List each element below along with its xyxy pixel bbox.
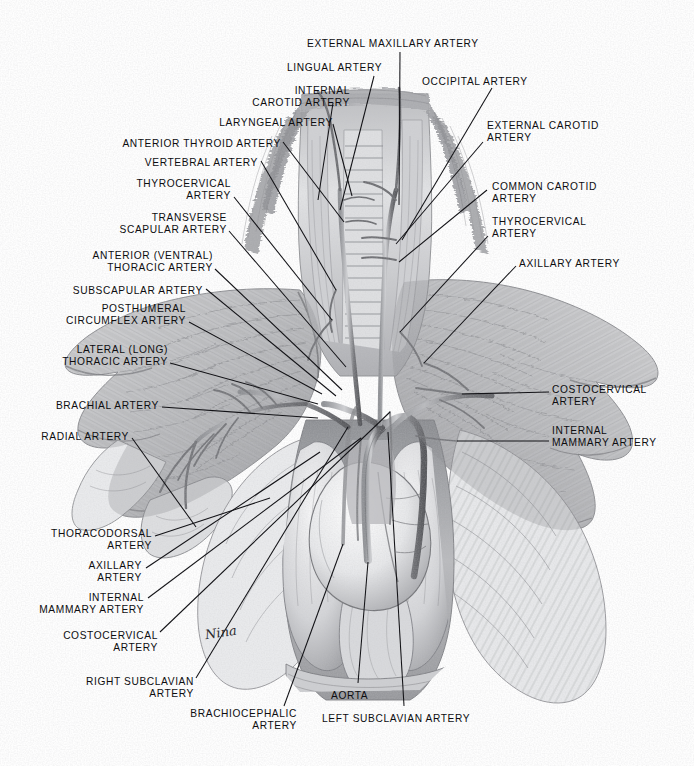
- label-line: INTERNAL: [39, 592, 144, 604]
- label-line: EXTERNAL CAROTID: [487, 120, 599, 132]
- label-internal-carotid-artery: INTERNALCAROTID ARTERY: [252, 85, 350, 110]
- label-line: TRANSVERSE: [120, 212, 227, 224]
- label-line: ARTERY: [51, 540, 152, 552]
- label-line: ARTERY: [190, 720, 297, 732]
- label-line: ARTERY: [487, 132, 599, 144]
- label-line: CIRCUMFLEX ARTERY: [66, 315, 186, 327]
- label-line: ARTERY: [492, 228, 586, 240]
- label-line: ANTERIOR (VENTRAL): [93, 250, 213, 262]
- label-posthumeral-circumflex-artery: POSTHUMERALCIRCUMFLEX ARTERY: [66, 303, 186, 328]
- label-line: AXILLARY: [89, 560, 142, 572]
- label-transverse-scapular-artery: TRANSVERSESCAPULAR ARTERY: [120, 212, 227, 237]
- label-line: ARTERY: [63, 642, 158, 654]
- label-line: RIGHT SUBCLAVIAN: [86, 676, 194, 688]
- label-line: LEFT SUBCLAVIAN ARTERY: [322, 713, 470, 725]
- label-line: RADIAL ARTERY: [41, 431, 129, 443]
- label-axillary-artery-left: AXILLARYARTERY: [89, 560, 142, 585]
- label-line: VERTEBRAL ARTERY: [145, 157, 258, 169]
- label-costocervical-artery-left: COSTOCERVICALARTERY: [63, 630, 158, 655]
- label-line: SCAPULAR ARTERY: [120, 224, 227, 236]
- label-thyrocervical-artery-right: THYROCERVICALARTERY: [492, 216, 586, 241]
- label-line: ARTERY: [86, 688, 194, 700]
- label-right-subclavian-artery: RIGHT SUBCLAVIANARTERY: [86, 676, 194, 701]
- label-line: ARTERY: [89, 572, 142, 584]
- label-costocervical-artery-right: COSTOCERVICALARTERY: [552, 384, 647, 409]
- label-common-carotid-artery: COMMON CAROTIDARTERY: [492, 181, 597, 206]
- label-line: BRACHIAL ARTERY: [56, 400, 159, 412]
- label-line: CAROTID ARTERY: [252, 97, 350, 109]
- label-brachiocephalic-artery: BRACHIOCEPHALICARTERY: [190, 708, 297, 733]
- label-line: AXILLARY ARTERY: [519, 258, 620, 270]
- label-line: INTERNAL: [552, 425, 657, 437]
- label-line: LATERAL (LONG): [62, 344, 168, 356]
- label-line: COSTOCERVICAL: [552, 384, 647, 396]
- label-line: COSTOCERVICAL: [63, 630, 158, 642]
- label-line: AORTA: [331, 690, 368, 702]
- label-thyrocervical-artery-left: THYROCERVICALARTERY: [137, 178, 231, 203]
- label-line: MAMMARY ARTERY: [39, 604, 144, 616]
- label-laryngeal-artery: LARYNGEAL ARTERY: [219, 117, 333, 129]
- label-external-carotid-artery: EXTERNAL CAROTIDARTERY: [487, 120, 599, 145]
- label-subscapular-artery: SUBSCAPULAR ARTERY: [73, 285, 203, 297]
- label-line: POSTHUMERAL: [66, 303, 186, 315]
- label-line: LARYNGEAL ARTERY: [219, 117, 333, 129]
- label-external-maxillary-artery: EXTERNAL MAXILLARY ARTERY: [307, 38, 479, 50]
- label-radial-artery: RADIAL ARTERY: [41, 431, 129, 443]
- label-anterior-ventral-thoracic-artery: ANTERIOR (VENTRAL)THORACIC ARTERY: [93, 250, 213, 275]
- label-line: EXTERNAL MAXILLARY ARTERY: [307, 38, 479, 50]
- label-line: LINGUAL ARTERY: [287, 62, 382, 74]
- label-line: ARTERY: [137, 190, 231, 202]
- label-internal-mammary-artery-left: INTERNALMAMMARY ARTERY: [39, 592, 144, 617]
- label-line: SUBSCAPULAR ARTERY: [73, 285, 203, 297]
- label-axillary-artery-right: AXILLARY ARTERY: [519, 258, 620, 270]
- label-line: ARTERY: [552, 396, 647, 408]
- label-brachial-artery: BRACHIAL ARTERY: [56, 400, 159, 412]
- label-line: THYROCERVICAL: [492, 216, 586, 228]
- label-line: THORACIC ARTERY: [93, 262, 213, 274]
- label-left-subclavian-artery: LEFT SUBCLAVIAN ARTERY: [322, 713, 470, 725]
- label-line: THORACIC ARTERY: [62, 356, 168, 368]
- label-aorta: AORTA: [331, 690, 368, 702]
- label-line: ANTERIOR THYROID ARTERY: [122, 138, 281, 150]
- label-line: THYROCERVICAL: [137, 178, 231, 190]
- label-line: MAMMARY ARTERY: [552, 437, 657, 449]
- label-lateral-long-thoracic-artery: LATERAL (LONG)THORACIC ARTERY: [62, 344, 168, 369]
- label-line: BRACHIOCEPHALIC: [190, 708, 297, 720]
- label-thoracodorsal-artery: THORACODORSALARTERY: [51, 528, 152, 553]
- label-line: THORACODORSAL: [51, 528, 152, 540]
- label-vertebral-artery: VERTEBRAL ARTERY: [145, 157, 258, 169]
- label-line: OCCIPITAL ARTERY: [422, 76, 528, 88]
- anatomy-plate: EXTERNAL MAXILLARY ARTERYLINGUAL ARTERYI…: [0, 0, 694, 766]
- label-occipital-artery: OCCIPITAL ARTERY: [422, 76, 528, 88]
- label-internal-mammary-artery-right: INTERNALMAMMARY ARTERY: [552, 425, 657, 450]
- label-line: ARTERY: [492, 193, 597, 205]
- label-anterior-thyroid-artery: ANTERIOR THYROID ARTERY: [122, 138, 281, 150]
- label-line: INTERNAL: [252, 85, 350, 97]
- label-line: COMMON CAROTID: [492, 181, 597, 193]
- label-lingual-artery: LINGUAL ARTERY: [287, 62, 382, 74]
